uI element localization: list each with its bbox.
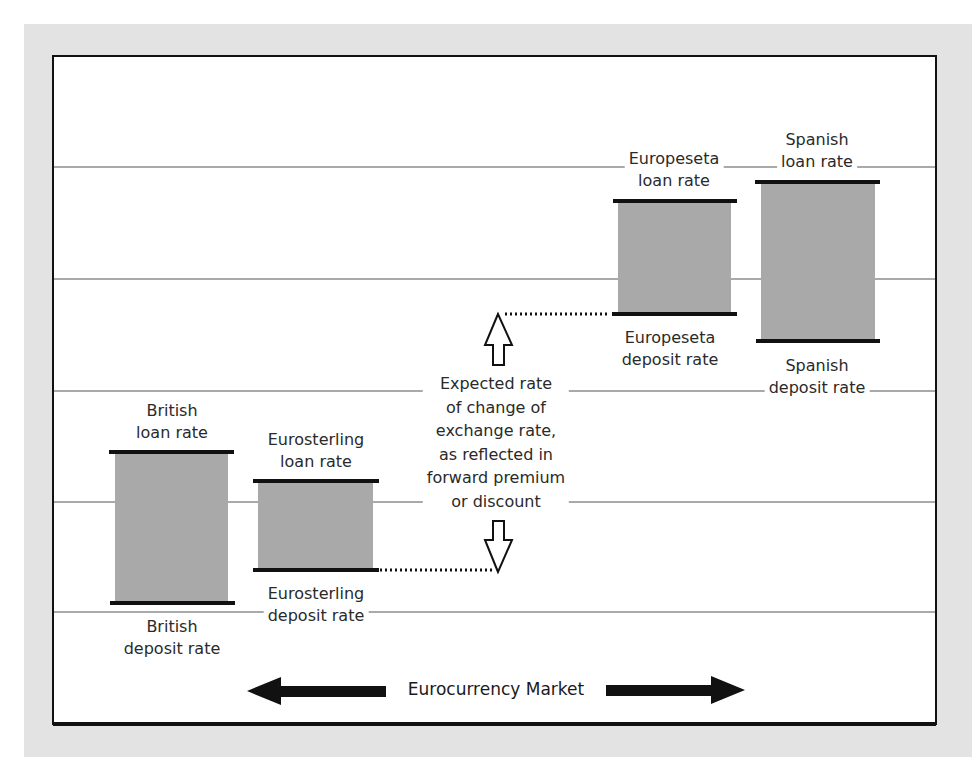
spanish-deposit-label-line2: deposit rate bbox=[769, 377, 866, 399]
eurosterling-deposit-label-line2: deposit rate bbox=[268, 605, 365, 627]
spanish-loan-bar bbox=[755, 180, 880, 184]
eurosterling-loan-label: Eurosterling loan rate bbox=[264, 429, 368, 473]
europeseta-deposit-label-line2: deposit rate bbox=[622, 349, 719, 371]
spanish-loan-label-line2: loan rate bbox=[781, 151, 853, 173]
europeseta-deposit-label: Europeseta deposit rate bbox=[618, 327, 723, 371]
eurosterling-rate-box bbox=[253, 479, 379, 572]
europeseta-spread bbox=[618, 202, 731, 313]
spanish-deposit-label-line1: Spanish bbox=[769, 355, 866, 377]
eurosterling-loan-label-line2: loan rate bbox=[268, 451, 364, 473]
british-deposit-bar bbox=[110, 601, 235, 605]
british-deposit-label-line2: deposit rate bbox=[124, 638, 221, 660]
eurosterling-deposit-bar bbox=[253, 568, 379, 572]
spanish-deposit-label: Spanish deposit rate bbox=[765, 355, 870, 399]
spanish-deposit-bar bbox=[756, 339, 880, 343]
annotation-line-3: exchange rate, bbox=[427, 419, 565, 443]
annotation-line-1: Expected rate bbox=[427, 372, 565, 396]
europeseta-deposit-label-line1: Europeseta bbox=[622, 327, 719, 349]
eurosterling-loan-bar bbox=[253, 479, 379, 483]
europeseta-loan-label-line2: loan rate bbox=[629, 170, 720, 192]
spanish-rate-box bbox=[755, 180, 880, 343]
british-rate-box bbox=[109, 450, 235, 605]
eurocurrency-market-label: Eurocurrency Market bbox=[408, 679, 584, 699]
annotation-line-6: or discount bbox=[427, 490, 565, 514]
eurosterling-spread bbox=[258, 482, 373, 570]
british-deposit-label-line1: British bbox=[142, 616, 201, 638]
annotation-line-4: as reflected in bbox=[427, 443, 565, 467]
british-deposit-label: British deposit rate bbox=[120, 616, 225, 660]
europeseta-rate-box bbox=[612, 199, 737, 316]
british-loan-label: British loan rate bbox=[132, 400, 212, 444]
europeseta-deposit-bar bbox=[612, 312, 737, 316]
europeseta-loan-label: Europeseta loan rate bbox=[625, 148, 724, 192]
eurocurrency-diagram: British loan rate British deposit rate E… bbox=[0, 0, 978, 766]
eurosterling-deposit-label: Eurosterling deposit rate bbox=[264, 583, 369, 627]
spanish-spread bbox=[761, 183, 875, 341]
eurosterling-loan-label-line1: Eurosterling bbox=[268, 429, 364, 451]
eurosterling-deposit-label-line1: Eurosterling bbox=[268, 583, 365, 605]
spanish-loan-label-line1: Spanish bbox=[781, 129, 853, 151]
spanish-loan-label: Spanish loan rate bbox=[777, 129, 857, 173]
europeseta-loan-label-line1: Europeseta bbox=[629, 148, 720, 170]
annotation-line-5: forward premium bbox=[427, 466, 565, 490]
british-loan-bar bbox=[109, 450, 234, 454]
europeseta-loan-bar bbox=[613, 199, 737, 203]
exchange-rate-annotation: Expected rate of change of exchange rate… bbox=[423, 372, 569, 513]
british-loan-label-line1: British bbox=[136, 400, 208, 422]
annotation-line-2: of change of bbox=[427, 396, 565, 420]
british-spread bbox=[115, 453, 228, 603]
british-loan-label-line2: loan rate bbox=[136, 422, 208, 444]
